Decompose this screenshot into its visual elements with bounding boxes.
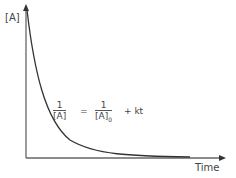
x-axis-label: Time [195, 162, 219, 173]
chart-plot [0, 0, 236, 178]
x-axis-arrow-icon [219, 155, 226, 161]
equation-fraction-2: 1 [A]0 [95, 100, 112, 123]
y-axis-arrow-icon [23, 4, 29, 11]
y-axis-label: [A] [5, 12, 20, 23]
decay-curve [27, 10, 190, 157]
equation-tail: + kt [124, 106, 143, 116]
equation-equals: = [80, 106, 88, 116]
equation-fraction-1: 1 [A] [53, 100, 66, 121]
